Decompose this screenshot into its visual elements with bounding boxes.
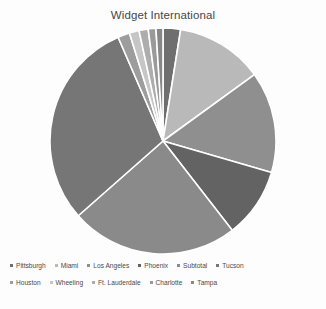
legend-marker-icon <box>138 264 141 267</box>
legend-item[interactable]: Ft. Lauderdale <box>92 276 141 289</box>
legend-item-label: Pittsburgh <box>16 261 46 270</box>
legend-marker-icon <box>191 281 194 284</box>
legend-marker-icon <box>87 264 90 267</box>
legend-marker-icon <box>177 264 180 267</box>
legend-item-label: Ft. Lauderdale <box>98 278 141 287</box>
legend-marker-icon <box>216 264 219 267</box>
legend-item-label: Tampa <box>197 278 217 287</box>
legend-item-label: Wheeling <box>56 278 84 287</box>
legend-item[interactable]: Tucson <box>216 259 243 272</box>
legend-item[interactable]: Phoenix <box>138 259 168 272</box>
legend-marker-icon <box>55 264 58 267</box>
legend-marker-icon <box>150 281 153 284</box>
legend-item[interactable]: Wheeling <box>50 276 84 289</box>
legend-item[interactable]: Tampa <box>191 276 217 289</box>
legend-item-label: Subtotal <box>183 261 207 270</box>
pie-svg <box>48 26 278 256</box>
chart-legend: PittsburghMiamiLos AngelesPhoenixSubtota… <box>0 259 326 291</box>
legend-marker-icon <box>92 281 95 284</box>
legend-marker-icon <box>10 281 13 284</box>
legend-item[interactable]: Charlotte <box>150 276 183 289</box>
legend-item-label: Phoenix <box>144 261 168 270</box>
legend-item-label: Houston <box>16 278 41 287</box>
legend-item-label: Los Angeles <box>93 261 129 270</box>
legend-item[interactable]: Subtotal <box>177 259 207 272</box>
pie-plot-area <box>0 26 326 256</box>
legend-item-label: Tucson <box>222 261 243 270</box>
pie-chart-figure: Widget International PittsburghMiamiLos … <box>0 0 326 309</box>
legend-marker-icon <box>10 264 13 267</box>
legend-item[interactable]: Pittsburgh <box>10 259 46 272</box>
legend-item[interactable]: Los Angeles <box>87 259 129 272</box>
legend-marker-icon <box>50 281 53 284</box>
legend-item[interactable]: Houston <box>10 276 41 289</box>
chart-title: Widget International <box>0 9 326 21</box>
legend-item-label: Charlotte <box>156 278 183 287</box>
pie-slice-group <box>50 28 276 254</box>
legend-item-label: Miami <box>61 261 79 270</box>
legend-item[interactable]: Miami <box>55 259 79 272</box>
